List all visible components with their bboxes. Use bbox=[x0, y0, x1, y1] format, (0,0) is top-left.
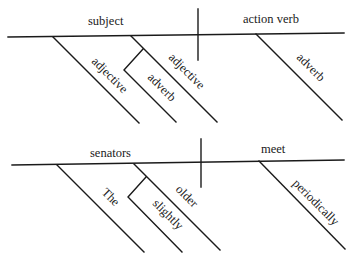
template-subject: subject bbox=[88, 14, 124, 28]
template-adjective-1-line bbox=[53, 37, 139, 123]
example-article: The bbox=[99, 185, 123, 209]
template-verb: action verb bbox=[243, 12, 299, 26]
example-article-line bbox=[57, 165, 144, 252]
example-diagram: senators meet The older slightly periodi… bbox=[12, 139, 345, 252]
example-verb: meet bbox=[261, 142, 286, 156]
template-verb-modifier: adverb bbox=[294, 50, 328, 84]
sentence-diagrams: subject action verb adjective adjective … bbox=[0, 0, 356, 267]
example-verb-modifier: periodically bbox=[290, 176, 343, 229]
template-adjective-modifier: adverb bbox=[145, 70, 179, 104]
example-subject: senators bbox=[90, 146, 131, 160]
template-verb-modifier-line bbox=[256, 34, 342, 120]
template-adjective-1: adjective bbox=[89, 54, 131, 96]
template-adjective-2: adjective bbox=[166, 50, 208, 92]
example-baseline bbox=[12, 160, 344, 165]
example-verb-modifier-line bbox=[259, 161, 345, 249]
template-diagram: subject action verb adjective adjective … bbox=[8, 9, 344, 123]
template-baseline bbox=[8, 33, 344, 37]
example-adjective-modifier: slightly bbox=[150, 196, 187, 233]
